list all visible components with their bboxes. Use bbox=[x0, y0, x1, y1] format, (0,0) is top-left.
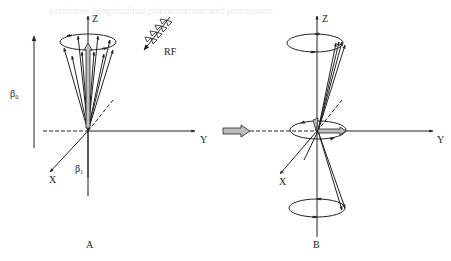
x-label-a: X bbox=[49, 174, 57, 185]
x-label-b: X bbox=[279, 176, 287, 187]
x-axis-b bbox=[280, 131, 317, 174]
bleed-text: produces longitudinal phenomenon and pre… bbox=[50, 4, 276, 16]
spin-vectors-down-b bbox=[304, 131, 345, 210]
rf-label: RF bbox=[164, 46, 177, 57]
net-magnetization-b bbox=[318, 127, 346, 135]
caption-b: B bbox=[313, 239, 320, 250]
panel-a bbox=[34, 16, 195, 196]
panel-b bbox=[280, 16, 433, 237]
spin-vectors-up-b bbox=[318, 42, 345, 131]
nmr-precession-diagram: produces longitudinal phenomenon and pre… bbox=[0, 0, 451, 261]
caption-a: A bbox=[86, 239, 94, 250]
y-label-b: Y bbox=[437, 134, 444, 145]
y-label-a: Y bbox=[200, 134, 207, 145]
b1-label: β₁ bbox=[75, 163, 84, 174]
z-label-b: Z bbox=[322, 13, 328, 24]
transition-arrow-icon bbox=[223, 125, 250, 137]
b0-label: β₀ bbox=[10, 88, 19, 99]
z-label-a: Z bbox=[92, 13, 98, 24]
